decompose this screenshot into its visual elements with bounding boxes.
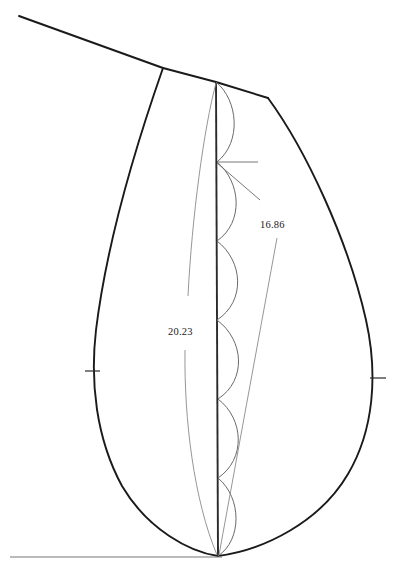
leaf-diagram-svg (0, 0, 393, 570)
scallop-arc (217, 320, 239, 399)
petiole-line (19, 16, 268, 98)
dimension-label-left: 20.23 (166, 326, 195, 337)
dimension-label-right: 16.86 (258, 219, 287, 230)
leader-line-diagonal (217, 163, 260, 200)
scallop-arc (217, 241, 238, 320)
leaf-outline-right (218, 98, 372, 556)
inner-curve-left-lower (185, 350, 217, 555)
leaf-outline-left (94, 68, 218, 556)
drawing-canvas: 20.23 16.86 (0, 0, 393, 570)
scallop-arc (217, 162, 236, 241)
inner-curve-right (219, 238, 277, 555)
scallop-arc-group (216, 82, 239, 556)
inner-curve-left-upper (188, 83, 216, 296)
scallop-arc (216, 82, 234, 162)
